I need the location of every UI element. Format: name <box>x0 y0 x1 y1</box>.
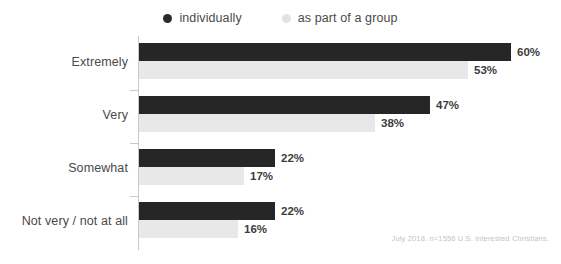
bar-value-label: 53% <box>474 64 497 76</box>
bar-as-part-of-a-group <box>139 220 238 238</box>
bar-value-label: 22% <box>281 205 304 217</box>
bar-individually <box>139 43 511 61</box>
bar-row: 22% <box>139 202 275 220</box>
bar-row: 60% <box>139 43 511 61</box>
bar-value-label: 16% <box>244 223 267 235</box>
category-label: Extremely <box>0 55 128 69</box>
bar-individually <box>139 202 275 220</box>
bar-row: 38% <box>139 114 375 132</box>
bar-chart: Extremely 60% 53% Very 47% 38% Somewhat … <box>0 0 561 264</box>
bar-row: 47% <box>139 96 430 114</box>
bar-value-label: 38% <box>381 117 404 129</box>
bar-as-part-of-a-group <box>139 61 468 79</box>
bar-value-label: 60% <box>517 46 540 58</box>
bar-row: 22% <box>139 149 275 167</box>
category-label: Not very / not at all <box>0 214 128 228</box>
bar-row: 17% <box>139 167 244 185</box>
bar-individually <box>139 96 430 114</box>
bar-row: 16% <box>139 220 238 238</box>
bar-individually <box>139 149 275 167</box>
bar-value-label: 17% <box>250 170 273 182</box>
axis-tick <box>130 196 138 197</box>
chart-source-note: July 2018. n=1556 U.S. interested Christ… <box>392 234 549 243</box>
bar-value-label: 47% <box>436 99 459 111</box>
category-label: Somewhat <box>0 161 128 175</box>
bar-as-part-of-a-group <box>139 167 244 185</box>
bar-as-part-of-a-group <box>139 114 375 132</box>
bar-row: 53% <box>139 61 468 79</box>
category-label: Very <box>0 108 128 122</box>
axis-tick <box>130 143 138 144</box>
bar-value-label: 22% <box>281 152 304 164</box>
axis-tick <box>130 90 138 91</box>
